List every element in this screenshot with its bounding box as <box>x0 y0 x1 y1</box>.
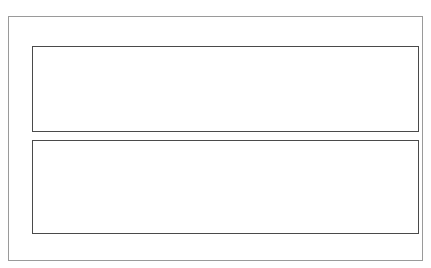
panel-shares-of-net-value-added <box>14 130 419 255</box>
top-plot-area <box>32 46 419 132</box>
bottom-chart-svg <box>32 140 419 234</box>
x-axis-labels <box>32 236 419 246</box>
panel-rates-of-return <box>14 20 419 130</box>
chart-page <box>0 0 431 268</box>
bottom-plot-area <box>32 140 419 234</box>
top-chart-svg <box>32 46 419 132</box>
top-y-axis-labels <box>14 46 30 132</box>
bottom-y-axis-labels <box>14 140 30 234</box>
